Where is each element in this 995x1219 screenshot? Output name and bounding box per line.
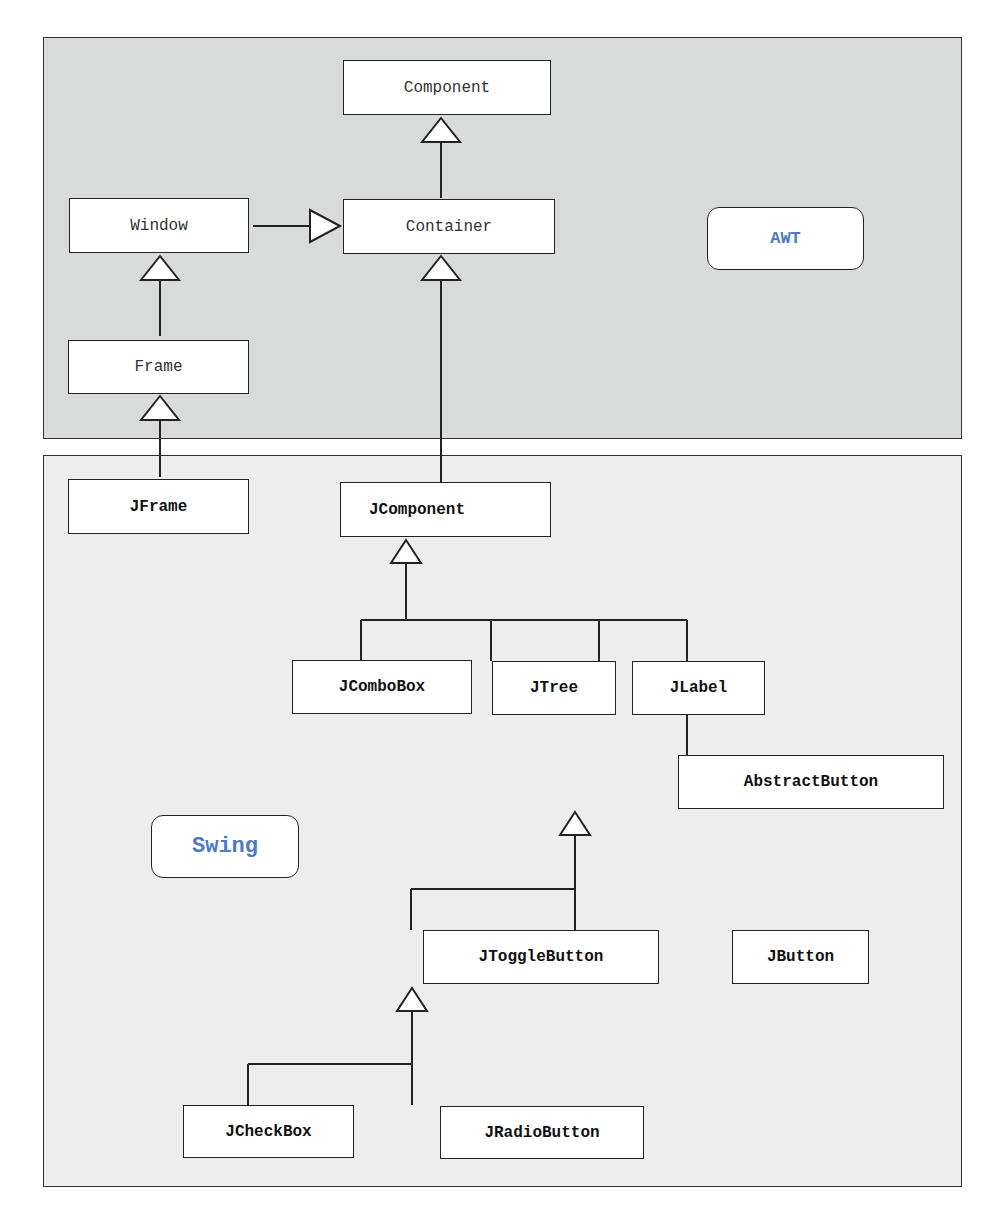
class-jtree: JTree (492, 661, 616, 715)
class-jlabel: JLabel (632, 661, 765, 715)
swing-label: Swing (151, 815, 299, 878)
class-jcombobox: JComboBox (292, 660, 472, 714)
class-jbutton: JButton (732, 930, 869, 984)
class-component-label: Component (404, 79, 490, 97)
class-frame: Frame (68, 340, 249, 394)
class-frame-label: Frame (134, 358, 182, 376)
class-abstractbutton-label: AbstractButton (744, 773, 878, 791)
awt-label-text: AWT (770, 229, 801, 248)
class-component: Component (343, 60, 551, 115)
class-jframe-label: JFrame (130, 498, 188, 516)
class-jtogglebutton: JToggleButton (423, 930, 659, 984)
class-container: Container (343, 199, 555, 254)
class-jlabel-label: JLabel (670, 679, 728, 697)
class-jcombobox-label: JComboBox (339, 678, 425, 696)
class-jradiobutton-label: JRadioButton (484, 1124, 599, 1142)
class-window: Window (69, 198, 249, 253)
awt-label: AWT (707, 207, 864, 270)
class-abstractbutton: AbstractButton (678, 755, 944, 809)
swing-label-text: Swing (192, 834, 258, 859)
class-jbutton-label: JButton (767, 948, 834, 966)
class-jcheckbox: JCheckBox (183, 1105, 354, 1158)
class-jtogglebutton-label: JToggleButton (479, 948, 604, 966)
class-jradiobutton: JRadioButton (440, 1106, 644, 1159)
class-container-label: Container (406, 218, 492, 236)
class-jtree-label: JTree (530, 679, 578, 697)
class-jframe: JFrame (68, 479, 249, 534)
class-window-label: Window (130, 217, 188, 235)
class-jcheckbox-label: JCheckBox (225, 1123, 311, 1141)
class-jcomponent-label: JComponent (369, 501, 465, 519)
class-jcomponent: JComponent (340, 482, 551, 537)
